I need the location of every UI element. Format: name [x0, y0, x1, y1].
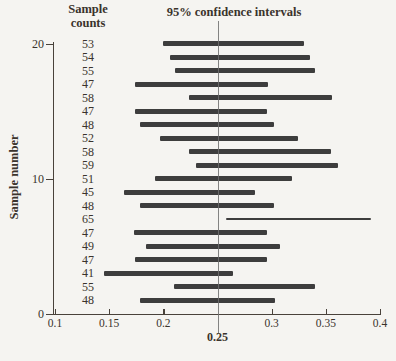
- x-axis-tick: [109, 309, 110, 314]
- y-axis-tick: [46, 179, 53, 180]
- x-axis-tick: [326, 309, 327, 314]
- x-axis-tick-label: 0.35: [306, 317, 346, 330]
- confidence-intervals-figure: Sample counts 95% confidence intervals S…: [0, 0, 396, 361]
- x-axis-tick-label: 0.2: [143, 317, 183, 330]
- y-axis-tick-label: 20: [16, 37, 44, 51]
- sample-count-label: 52: [72, 131, 104, 145]
- confidence-interval-bar: [104, 271, 233, 276]
- confidence-interval-bar: [189, 149, 331, 154]
- confidence-interval-bar: [155, 176, 293, 181]
- y-axis-tick-label: 0: [16, 307, 44, 321]
- chart-title: 95% confidence intervals: [167, 6, 302, 20]
- x-axis-tick-label: 0.4: [360, 317, 396, 330]
- confidence-interval-bar: [189, 95, 332, 100]
- sample-count-label: 45: [72, 185, 104, 199]
- y-axis-tick: [46, 314, 53, 315]
- y-axis-tick: [46, 44, 53, 45]
- sample-counts-header: Sample counts: [68, 3, 108, 30]
- x-axis-tick: [272, 309, 273, 314]
- sample-count-label: 59: [72, 158, 104, 172]
- sample-count-label: 47: [72, 253, 104, 267]
- sample-count-label: 53: [72, 37, 104, 51]
- confidence-interval-bar: [175, 68, 315, 73]
- sample-count-label: 47: [72, 226, 104, 240]
- x-axis-tick: [55, 309, 56, 314]
- confidence-interval-bar: [174, 284, 315, 289]
- sample-count-label: 48: [72, 199, 104, 213]
- sample-count-label: 58: [72, 91, 104, 105]
- confidence-interval-bar: [146, 244, 280, 249]
- sample-count-label: 55: [72, 64, 104, 78]
- confidence-interval-bar: [140, 298, 275, 303]
- sample-count-label: 49: [72, 239, 104, 253]
- confidence-interval-bar: [134, 230, 267, 235]
- confidence-interval-bar: [135, 109, 267, 114]
- sample-count-label: 41: [72, 266, 104, 280]
- sample-count-label: 47: [72, 104, 104, 118]
- sample-count-label: 58: [72, 145, 104, 159]
- confidence-interval-bar: [170, 55, 310, 60]
- x-axis-tick: [163, 309, 164, 314]
- reference-line-0.25: [218, 21, 219, 333]
- y-axis-line: [53, 42, 54, 315]
- sample-count-label: 48: [72, 293, 104, 307]
- confidence-interval-bar: [160, 136, 298, 141]
- confidence-interval-bar: [163, 41, 304, 46]
- sample-count-label: 51: [72, 172, 104, 186]
- confidence-interval-bar: [140, 203, 274, 208]
- confidence-interval-line-thin: [226, 218, 371, 220]
- confidence-interval-bar: [140, 122, 274, 127]
- confidence-interval-bar: [124, 190, 255, 195]
- x-axis-tick: [380, 309, 381, 314]
- sample-count-label: 65: [72, 212, 104, 226]
- x-axis-tick-label: 0.15: [89, 317, 129, 330]
- confidence-interval-bar: [135, 257, 267, 262]
- sample-count-label: 55: [72, 280, 104, 294]
- x-axis-tick-label: 0.3: [252, 317, 292, 330]
- y-axis-tick-label: 10: [16, 172, 44, 186]
- sample-count-label: 47: [72, 77, 104, 91]
- sample-count-label: 54: [72, 50, 104, 64]
- sample-count-label: 48: [72, 118, 104, 132]
- confidence-interval-bar: [135, 82, 268, 87]
